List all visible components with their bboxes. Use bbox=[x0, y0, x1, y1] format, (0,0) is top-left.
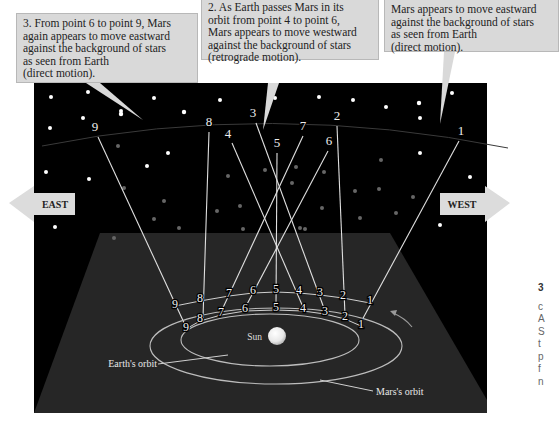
earth-position-number: 3 bbox=[322, 304, 328, 318]
mars-position-number: 3 bbox=[317, 285, 323, 299]
sky-position-number: 6 bbox=[326, 133, 333, 148]
earth-position-number: 5 bbox=[273, 300, 279, 314]
mars-position-number: 4 bbox=[296, 283, 302, 297]
mars-orbit-label: Mars's orbit bbox=[376, 386, 424, 397]
sky-position-number: 2 bbox=[334, 108, 341, 123]
callout-line: as seen from Earth bbox=[23, 55, 191, 68]
cropped-caption-char: p bbox=[538, 351, 545, 364]
callout-line: against the background of stars bbox=[208, 39, 372, 52]
callout-line: against the background of stars bbox=[23, 42, 191, 55]
callout-line: (direct motion). bbox=[23, 67, 191, 80]
mars-position-number: 6 bbox=[250, 283, 256, 297]
mars-position-number: 2 bbox=[340, 288, 346, 302]
sky-position-number: 3 bbox=[250, 105, 257, 120]
earth-position-number: 9 bbox=[183, 320, 189, 334]
sun bbox=[268, 327, 286, 345]
sky-position-number: 1 bbox=[458, 123, 465, 138]
cropped-caption-char: t bbox=[538, 338, 545, 351]
sky-position-number: 4 bbox=[225, 126, 232, 141]
sky-position-number: 8 bbox=[206, 114, 213, 129]
callout-line: Mars appears to move eastward bbox=[391, 3, 552, 16]
sun-label: Sun bbox=[247, 332, 262, 342]
mars-position-number: 7 bbox=[226, 286, 232, 300]
callout-line: again appears to move eastward bbox=[23, 30, 191, 43]
mars-position-number: 8 bbox=[197, 291, 203, 305]
earth-position-number: 4 bbox=[300, 301, 306, 315]
west-label: WEST bbox=[448, 199, 477, 210]
earth-position-number: 8 bbox=[197, 311, 203, 325]
callout-direct-motion-early: Mars appears to move eastward against th… bbox=[384, 0, 559, 52]
earth-position-number: 7 bbox=[218, 305, 224, 319]
east-label: EAST bbox=[42, 199, 68, 210]
callout-line: as seen from Earth bbox=[391, 28, 552, 41]
callout-line: (direct motion). bbox=[391, 41, 552, 54]
mars-position-number: 9 bbox=[172, 297, 178, 311]
callout-retrograde-motion: 2. As Earth passes Mars in its orbit fro… bbox=[201, 0, 379, 60]
cropped-caption-char: f bbox=[538, 363, 545, 376]
earth-position-number: 2 bbox=[342, 309, 348, 323]
sky-position-number: 5 bbox=[274, 135, 281, 150]
callout-line: against the background of stars bbox=[391, 16, 552, 29]
cropped-caption-char: S bbox=[538, 326, 545, 339]
cropped-caption-char: A bbox=[538, 313, 545, 326]
sky-position-number: 9 bbox=[92, 119, 99, 134]
cropped-caption-char: c bbox=[538, 301, 545, 314]
earth-position-number: 6 bbox=[242, 301, 248, 315]
cropped-caption-char: n bbox=[538, 376, 545, 389]
callout-line: (retrograde motion). bbox=[208, 51, 372, 64]
callout-line: 2. As Earth passes Mars in its bbox=[208, 1, 372, 14]
mars-position-number: 5 bbox=[273, 282, 279, 296]
sky-position-number: 7 bbox=[300, 118, 307, 133]
cropped-caption-char: 3 bbox=[538, 282, 545, 295]
callout-line: orbit from point 4 to point 6, bbox=[208, 14, 372, 27]
earth-position-number: 1 bbox=[358, 317, 364, 331]
callout-line: 3. From point 6 to point 9, Mars bbox=[23, 17, 191, 30]
earth-orbit-label: Earth's orbit bbox=[108, 358, 157, 369]
callout-line: Mars appears to move westward bbox=[208, 26, 372, 39]
mars-position-number: 1 bbox=[367, 293, 373, 307]
cropped-caption-text: 3 c A S t p f n bbox=[538, 282, 545, 388]
callout-direct-motion-late: 3. From point 6 to point 9, Mars again a… bbox=[16, 13, 198, 83]
